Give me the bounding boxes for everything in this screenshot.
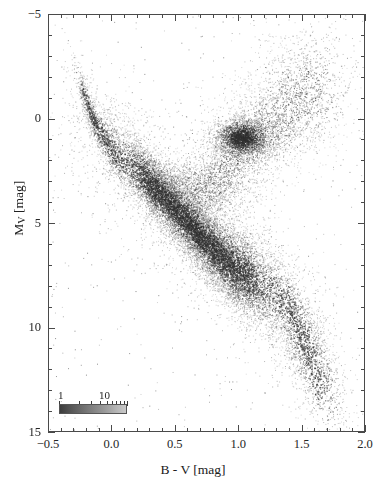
y-major-tick <box>48 119 55 120</box>
y-minor-tick <box>48 139 52 140</box>
x-major-tick-top <box>111 14 112 21</box>
y-minor-tick-right <box>361 265 365 266</box>
y-minor-tick <box>48 390 52 391</box>
x-major-tick <box>302 425 303 432</box>
x-minor-tick-top <box>276 14 277 18</box>
x-minor-tick <box>276 428 277 432</box>
y-minor-tick-right <box>361 181 365 182</box>
x-minor-tick-top <box>187 14 188 18</box>
y-major-tick <box>48 432 55 433</box>
y-minor-tick-right <box>361 390 365 391</box>
x-tick-label: 1.5 <box>272 438 332 451</box>
x-minor-tick-top <box>137 14 138 18</box>
x-minor-tick-top <box>61 14 62 18</box>
y-major-tick <box>48 223 55 224</box>
y-major-tick-right <box>358 223 365 224</box>
x-axis-title-text: B - V [mag] <box>160 462 225 477</box>
y-minor-tick-right <box>361 77 365 78</box>
x-tick-label: −0.5 <box>18 438 78 451</box>
x-minor-tick <box>327 428 328 432</box>
x-minor-tick-top <box>213 14 214 18</box>
colorbar-label-low: 1 <box>58 390 64 401</box>
x-major-tick-top <box>302 14 303 21</box>
x-minor-tick <box>200 428 201 432</box>
plot-area <box>48 14 365 432</box>
x-major-tick-top <box>365 14 366 21</box>
x-minor-tick-top <box>289 14 290 18</box>
x-minor-tick <box>137 428 138 432</box>
y-minor-tick <box>48 202 52 203</box>
y-minor-tick <box>48 98 52 99</box>
x-major-tick-top <box>175 14 176 21</box>
x-minor-tick <box>213 428 214 432</box>
x-minor-tick <box>289 428 290 432</box>
x-minor-tick <box>99 428 100 432</box>
x-major-tick-top <box>48 14 49 21</box>
x-minor-tick <box>86 428 87 432</box>
x-minor-tick <box>340 428 341 432</box>
scatter-plot-canvas <box>49 15 365 432</box>
y-tick-label: 15 <box>0 426 41 439</box>
x-minor-tick-top <box>340 14 341 18</box>
x-major-tick <box>48 425 49 432</box>
y-minor-tick-right <box>361 202 365 203</box>
y-minor-tick-right <box>361 369 365 370</box>
y-axis-title: MV [mag] <box>11 153 28 263</box>
y-minor-tick <box>48 286 52 287</box>
x-minor-tick <box>226 428 227 432</box>
x-minor-tick-top <box>251 14 252 18</box>
x-minor-tick <box>61 428 62 432</box>
x-major-tick <box>111 425 112 432</box>
y-major-tick-right <box>358 14 365 15</box>
y-minor-tick <box>48 77 52 78</box>
y-minor-tick-right <box>361 160 365 161</box>
y-minor-tick-right <box>361 307 365 308</box>
y-minor-tick-right <box>361 35 365 36</box>
y-minor-tick-right <box>361 411 365 412</box>
y-minor-tick <box>48 411 52 412</box>
y-axis-title-unit: [mag] <box>11 181 26 217</box>
x-minor-tick <box>73 428 74 432</box>
colorbar-gradient <box>59 404 127 414</box>
x-minor-tick-top <box>149 14 150 18</box>
x-minor-tick-top <box>124 14 125 18</box>
x-minor-tick <box>352 428 353 432</box>
y-minor-tick-right <box>361 348 365 349</box>
x-tick-label: 0.5 <box>145 438 205 451</box>
y-major-tick-right <box>358 328 365 329</box>
x-tick-label: 2.0 <box>335 438 386 451</box>
x-major-tick <box>365 425 366 432</box>
x-minor-tick <box>162 428 163 432</box>
x-minor-tick-top <box>200 14 201 18</box>
x-minor-tick-top <box>86 14 87 18</box>
y-axis-title-symbol: M <box>11 224 26 236</box>
x-minor-tick <box>124 428 125 432</box>
y-tick-label: 0 <box>0 112 41 125</box>
x-minor-tick <box>264 428 265 432</box>
y-minor-tick-right <box>361 56 365 57</box>
x-major-tick <box>238 425 239 432</box>
density-colorbar-legend: 1 10 <box>59 393 129 417</box>
y-minor-tick <box>48 160 52 161</box>
x-axis-title: B - V [mag] <box>0 462 386 478</box>
x-tick-label: 1.0 <box>208 438 268 451</box>
y-minor-tick <box>48 35 52 36</box>
y-minor-tick <box>48 265 52 266</box>
x-minor-tick <box>187 428 188 432</box>
y-axis-title-subscript: V <box>16 216 27 223</box>
y-minor-tick-right <box>361 139 365 140</box>
y-minor-tick-right <box>361 244 365 245</box>
colorbar-tick <box>127 401 128 406</box>
x-minor-tick-top <box>264 14 265 18</box>
x-major-tick <box>175 425 176 432</box>
x-minor-tick-top <box>314 14 315 18</box>
x-minor-tick <box>314 428 315 432</box>
x-minor-tick-top <box>226 14 227 18</box>
x-minor-tick-top <box>352 14 353 18</box>
hr-diagram-figure: −0.50.00.51.01.52.0−5051015 B - V [mag] … <box>0 0 386 488</box>
y-minor-tick-right <box>361 286 365 287</box>
y-minor-tick <box>48 181 52 182</box>
y-major-tick <box>48 328 55 329</box>
x-minor-tick <box>149 428 150 432</box>
x-minor-tick <box>251 428 252 432</box>
